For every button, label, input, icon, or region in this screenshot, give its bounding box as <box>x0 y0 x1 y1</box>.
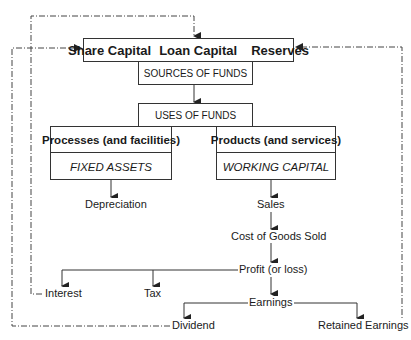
working-capital-label: WORKING CAPITAL <box>217 153 335 180</box>
profit-label: Profit (or loss) <box>238 263 308 275</box>
depreciation-label: Depreciation <box>84 198 148 210</box>
interest-label: Interest <box>44 287 83 299</box>
cost-of-goods-sold-label: Cost of Goods Sold <box>230 230 327 242</box>
processes-box: Processes (and facilities) FIXED ASSETS <box>50 126 172 180</box>
tax-label: Tax <box>143 287 162 299</box>
capital-sources-box: Share Capital Loan Capital Reserves <box>83 38 294 62</box>
reserves-label: Reserves <box>251 43 309 58</box>
retained-earnings-label: Retained Earnings <box>317 319 410 331</box>
loan-capital-label: Loan Capital <box>159 43 237 58</box>
earnings-label: Earnings <box>248 296 293 308</box>
products-heading: Products (and services) <box>217 127 335 153</box>
uses-of-funds-box: USES OF FUNDS <box>138 103 253 127</box>
dividend-label: Dividend <box>171 319 216 331</box>
sales-label: Sales <box>256 198 286 210</box>
share-capital-label: Share Capital <box>68 43 151 58</box>
fixed-assets-label: FIXED ASSETS <box>51 153 171 180</box>
processes-heading: Processes (and facilities) <box>51 127 171 153</box>
products-box: Products (and services) WORKING CAPITAL <box>216 126 336 180</box>
sources-of-funds-box: SOURCES OF FUNDS <box>138 61 253 85</box>
